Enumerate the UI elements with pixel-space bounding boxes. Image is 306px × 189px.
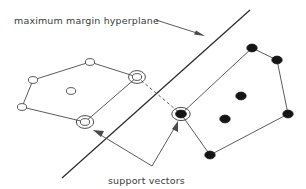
filled-point-upper-right	[272, 56, 282, 64]
open-support-vector-upper	[132, 74, 141, 81]
svm-margin-diagram: maximum margin hyperplane support vector…	[0, 0, 306, 189]
margin-connector-group	[137, 77, 181, 114]
open-class-points	[17, 59, 145, 129]
filled-point-top	[247, 44, 257, 52]
support-vectors-label: support vectors	[108, 175, 185, 186]
filled-point-interior-upper	[236, 92, 246, 100]
filled-class-points	[172, 44, 293, 159]
hyperplane-leader-arrowhead	[194, 31, 205, 37]
open-class-hull-group	[22, 62, 137, 122]
open-point-top	[85, 59, 94, 66]
support-leader-line-right	[152, 127, 175, 166]
filled-point-right	[283, 110, 293, 118]
filled-class-hull-group	[181, 48, 288, 155]
open-point-lower-left	[17, 104, 26, 111]
filled-point-interior-lower	[220, 115, 230, 123]
maximum-margin-hyperplane-line	[62, 10, 250, 178]
hyperplane-label-leader	[156, 20, 205, 36]
hyperplane-leader-line	[156, 20, 200, 34]
support-leader-line-left	[99, 134, 152, 166]
margin-connector-dashed-line	[137, 77, 181, 114]
open-support-vector-lower	[80, 119, 89, 126]
support-vectors-label-leaders	[93, 121, 178, 166]
open-class-convex-hull	[22, 62, 137, 122]
open-point-interior	[66, 88, 75, 95]
filled-class-convex-hull	[181, 48, 288, 155]
hyperplane-line-group	[62, 10, 250, 178]
hyperplane-label: maximum margin hyperplane	[14, 15, 159, 26]
open-point-upper-left	[28, 77, 37, 84]
filled-support-vector	[176, 110, 187, 118]
filled-point-bottom	[205, 151, 215, 159]
